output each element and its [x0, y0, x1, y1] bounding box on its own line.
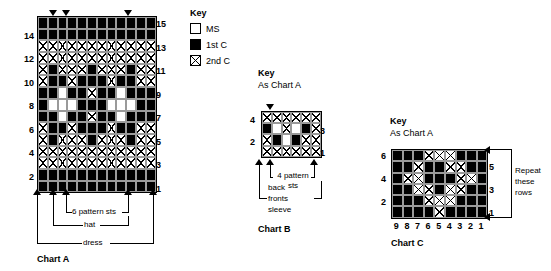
- row-label: 9: [156, 91, 161, 100]
- chart-c-cell-1stc: [392, 206, 403, 217]
- chart-a-cell: [87, 87, 97, 99]
- chart-a-cell: [48, 64, 58, 76]
- chart-a-cell: [67, 99, 77, 111]
- chart-a-cell-2ndc: [87, 111, 97, 123]
- chart-a-cell: [67, 169, 77, 181]
- chart-c-cell-1stc: [445, 173, 456, 184]
- chart-a-cell-2ndc: [77, 64, 87, 76]
- chart-b-cell-2ndc: [301, 112, 311, 123]
- legend-entry-1stc: 1st C: [190, 39, 230, 50]
- chart-a-cell: [97, 29, 107, 41]
- repeat-note-line-1: Repeat: [515, 165, 551, 176]
- chart-a-cell-2ndc: [87, 87, 97, 99]
- chart-c-cell: [456, 173, 467, 184]
- chart-a-cell-2ndc: [67, 40, 77, 52]
- chart-c-row: [392, 173, 488, 184]
- legend-swatch-ms-icon: [190, 23, 201, 34]
- chart-a-cell: [126, 87, 136, 99]
- chart-a-cell-1stc: [97, 87, 107, 99]
- chart-a-cell: [58, 134, 68, 146]
- chart-c-row: [392, 161, 488, 172]
- chart-a-cell: [58, 146, 68, 158]
- chart-c-cell-2ndc: [456, 161, 467, 172]
- chart-c-cell-2ndc: [434, 206, 445, 217]
- chart-a-cell-1stc: [136, 169, 146, 181]
- chart-a-cell-2ndc: [126, 157, 136, 169]
- chart-a-cell-2ndc: [67, 64, 77, 76]
- chart-a-cell: [48, 146, 58, 158]
- chart-c-cell: [392, 184, 403, 195]
- chart-c-cell-1stc: [413, 206, 424, 217]
- chart-a-cell: [58, 52, 68, 64]
- chart-a-cell: [87, 146, 97, 158]
- chart-b-cell-2ndc: [282, 146, 292, 157]
- chart-b-legend-title: Key: [258, 68, 275, 78]
- chart-a-cell: [116, 122, 126, 134]
- chart-a-cell: [126, 52, 136, 64]
- chart-c-cell-1stc: [403, 150, 414, 161]
- bracket-6pattern-bar-right: [122, 212, 129, 213]
- chart-b-cell-ms: [291, 123, 301, 134]
- chart-a-cell-1stc: [48, 111, 58, 123]
- chart-c-cell-1stc: [392, 161, 403, 172]
- chart-a-cell-ms: [116, 111, 126, 123]
- chart-a-cell: [146, 122, 156, 134]
- chart-c-cell-2ndc: [456, 184, 467, 195]
- chart-a-cell-1stc: [97, 181, 107, 193]
- chart-b-cell-2ndc: [291, 112, 301, 123]
- chart-a-cell: [97, 52, 107, 64]
- chart-a-cell-ms: [48, 99, 58, 111]
- chart-a-cell: [116, 17, 126, 29]
- chart-c-cell: [477, 184, 488, 195]
- chart-c-cell-1stc: [403, 161, 414, 172]
- chart-b-cell: [311, 134, 321, 145]
- bracket-garment-bar-left: [259, 198, 267, 199]
- chart-b-title: Chart B: [258, 224, 291, 234]
- chart-a-cell: [58, 64, 68, 76]
- chart-c-cell: [413, 173, 424, 184]
- chart-b-row-label-4: 4: [250, 116, 255, 125]
- chart-a-cell-2ndc: [116, 134, 126, 146]
- chart-b-top-marker-1: [266, 104, 274, 110]
- chart-b-row: [262, 134, 322, 145]
- chart-a-cell-1stc: [136, 87, 146, 99]
- chart-b-cell-2ndc: [272, 146, 282, 157]
- chart-a-cell: [48, 169, 58, 181]
- chart-c-cell-1stc: [424, 173, 435, 184]
- chart-a-cell: [77, 157, 87, 169]
- chart-c-cell: [466, 184, 477, 195]
- chart-a-cell: [67, 29, 77, 41]
- chart-c-row: [392, 206, 488, 218]
- chart-a-cell: [67, 111, 77, 123]
- chart-c-cell-1stc: [445, 206, 456, 217]
- bracket-dress-bar-left: [37, 243, 82, 244]
- chart-a-row: [38, 99, 157, 111]
- chart-a-cell-1stc: [97, 111, 107, 123]
- chart-a-cell-2ndc: [107, 64, 117, 76]
- chart-a-grid: [37, 16, 157, 193]
- chart-c-cell: [434, 206, 445, 218]
- chart-c-cell: [413, 206, 424, 218]
- chart-b-cell-2ndc: [301, 134, 311, 145]
- chart-a-cell: [116, 146, 126, 158]
- chart-a-cell-2ndc: [67, 146, 77, 158]
- chart-a-cell-1stc: [58, 29, 68, 41]
- bracket-6pattern-right-stem: [128, 195, 129, 212]
- chart-c-cell-1stc: [392, 195, 403, 206]
- bracket-label-back: back: [268, 182, 318, 193]
- chart-a-cell: [58, 169, 68, 181]
- chart-a-cell: [38, 157, 48, 169]
- chart-b-cell-ms: [272, 123, 282, 134]
- bracket-hat-bar-right: [100, 225, 129, 226]
- chart-c-row: [392, 195, 488, 206]
- chart-a-cell: [38, 169, 48, 181]
- chart-c-column-label: 4: [444, 222, 455, 231]
- chart-a-cell-1stc: [67, 17, 77, 29]
- chart-a-cell-2ndc: [136, 134, 146, 146]
- chart-b-cell: [272, 112, 282, 124]
- chart-a-cell-1stc: [97, 29, 107, 41]
- chart-b-cell-2ndc: [262, 146, 272, 157]
- chart-a-cell: [97, 64, 107, 76]
- chart-c-cell-2ndc: [413, 173, 424, 184]
- chart-a-cell: [136, 111, 146, 123]
